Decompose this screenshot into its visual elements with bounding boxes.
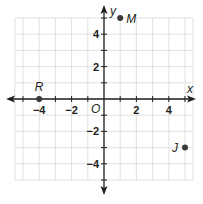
x-tick-label: 2 (133, 104, 139, 116)
x-tick-label: −2 (65, 104, 78, 116)
x-tick-label: −4 (33, 104, 46, 116)
point-r-label: R (35, 80, 44, 94)
point-m-label: M (126, 12, 136, 26)
origin-label: O (91, 102, 100, 116)
y-tick-label: −2 (86, 125, 99, 137)
point-r-marker (36, 96, 42, 102)
x-tick-label: 4 (166, 104, 173, 116)
y-tick-label: −4 (86, 158, 99, 170)
axes (6, 5, 196, 195)
coordinate-plane: −4−22442−2−4 x y O RMJ (0, 0, 203, 204)
y-tick-label: 4 (93, 28, 100, 40)
point-j-marker (182, 145, 188, 151)
y-axis-label: y (109, 4, 117, 18)
point-m-marker (117, 15, 123, 21)
point-j-label: J (171, 141, 179, 155)
x-axis-label: x (186, 82, 194, 96)
y-tick-label: 2 (93, 61, 99, 73)
data-points: RMJ (35, 12, 188, 155)
